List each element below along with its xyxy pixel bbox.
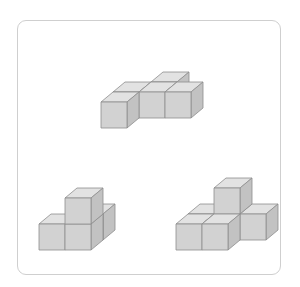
cube-figures <box>0 0 300 287</box>
l-stack-shape <box>39 188 115 250</box>
cross-shape <box>101 72 203 128</box>
step-shape <box>176 178 278 250</box>
